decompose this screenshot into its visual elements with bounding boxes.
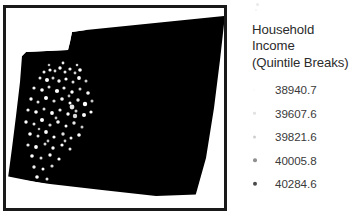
legend-item[interactable]: 40284.6 <box>248 172 355 196</box>
legend-item[interactable]: 39821.6 <box>248 125 355 149</box>
legend-value: 40005.8 <box>275 154 317 167</box>
legend-item[interactable]: 40005.8 <box>248 149 355 173</box>
legend-item[interactable]: 39607.6 <box>248 102 355 126</box>
legend-panel: Household Income (Quintile Breaks) 38940… <box>248 0 355 217</box>
legend-value: 40284.6 <box>275 177 317 190</box>
legend-dot-icon <box>253 135 256 138</box>
legend-dot-icon <box>253 89 255 91</box>
legend-entries: 38940.7 39607.6 39821.6 40005.8 40284.6 <box>248 78 355 196</box>
legend-value: 39821.6 <box>275 130 317 143</box>
legend-dot-icon <box>253 182 257 186</box>
map-canvas[interactable] <box>6 8 224 208</box>
legend-speckle-mark <box>256 3 259 6</box>
legend-dot-icon <box>253 158 257 162</box>
legend-speckle-mark <box>255 9 257 11</box>
legend-title: Household Income (Quintile Breaks) <box>252 22 355 71</box>
legend-value: 39607.6 <box>275 107 317 120</box>
map-panel[interactable] <box>3 5 227 211</box>
legend-dot-icon <box>253 112 256 115</box>
legend-value: 38940.7 <box>275 83 317 96</box>
legend-item[interactable]: 38940.7 <box>248 78 355 102</box>
